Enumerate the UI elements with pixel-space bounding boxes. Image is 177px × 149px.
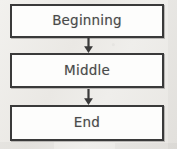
flowchart-diagram: Beginning Middle End: [0, 0, 177, 149]
arrow-down-icon-middle-to-end: [0, 89, 177, 105]
flowchart-node-middle[interactable]: Middle: [10, 53, 164, 88]
paper-smudge-bottom-left: [0, 142, 54, 149]
flowchart-node-beginning[interactable]: Beginning: [10, 4, 164, 38]
paper-smudge-bottom-right: [115, 143, 177, 149]
flowchart-node-end[interactable]: End: [10, 105, 164, 141]
paper-smudge-right-edge: [168, 0, 177, 149]
arrow-down-icon-beginning-to-middle: [0, 38, 177, 53]
flowchart-node-middle-label: Middle: [64, 64, 110, 78]
flowchart-node-end-label: End: [74, 116, 100, 130]
flowchart-node-beginning-label: Beginning: [52, 14, 122, 28]
